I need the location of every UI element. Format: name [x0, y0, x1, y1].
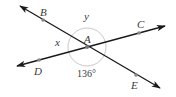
- point-d: [37, 58, 41, 62]
- label-b: B: [40, 6, 47, 18]
- label-e: E: [130, 79, 138, 91]
- point-c: [137, 31, 141, 35]
- angle-label-136: 136°: [77, 68, 96, 79]
- angle-label-y: y: [83, 10, 89, 22]
- point-e: [134, 73, 138, 77]
- label-a: A: [83, 33, 91, 45]
- label-c: C: [137, 18, 145, 30]
- point-a: [85, 45, 89, 49]
- point-b: [41, 18, 45, 22]
- label-d: D: [33, 65, 42, 77]
- intersecting-lines-diagram: B C D E A x y 136°: [0, 0, 176, 97]
- angle-label-x: x: [54, 36, 60, 48]
